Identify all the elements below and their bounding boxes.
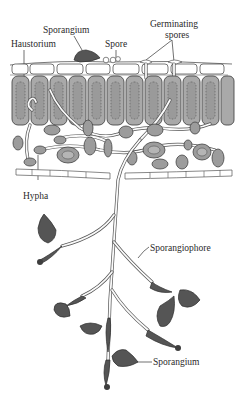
label-sporangium-top: Sporangium (43, 25, 90, 35)
label-germinating: Germinating (150, 19, 198, 29)
label-hypha: Hypha (23, 191, 49, 201)
leaf-fungus-diagram: Sporangium Spore Germinating spores Haus… (0, 0, 237, 410)
palisade-layer (12, 76, 234, 125)
label-sporangiophore: Sporangiophore (150, 243, 211, 253)
label-spore: Spore (105, 39, 127, 49)
label-spores: spores (165, 30, 190, 40)
surface-sporangium (74, 50, 120, 63)
upper-epidermis (10, 61, 232, 75)
label-sporangium-bottom: Sporangium (153, 357, 200, 367)
lower-epidermis (16, 169, 232, 179)
label-haustorium: Haustorium (11, 39, 56, 49)
